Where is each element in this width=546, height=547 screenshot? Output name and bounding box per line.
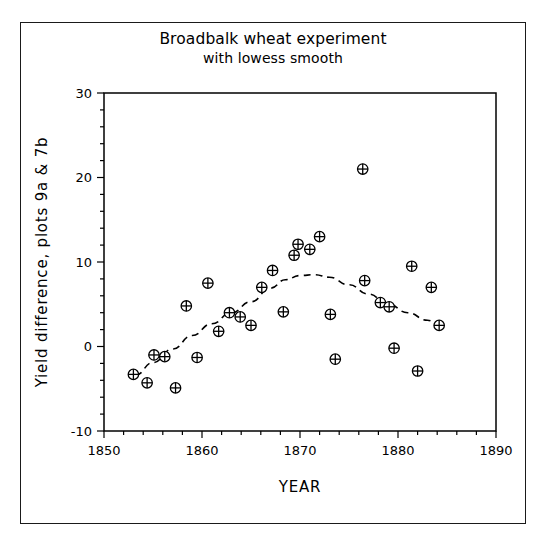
data-point-markers <box>128 164 444 393</box>
data-point-marker <box>358 164 368 174</box>
data-point-marker <box>407 261 417 271</box>
scatter-plot: 18501860187018801890 -100102030 YEAR Yie… <box>0 0 546 547</box>
x-axis-tick-labels: 18501860187018801890 <box>87 443 512 458</box>
data-point-marker <box>160 351 170 361</box>
data-point-marker <box>246 320 256 330</box>
data-point-marker <box>293 239 303 249</box>
y-tick-label: 30 <box>75 86 92 101</box>
y-axis-ticks <box>97 93 104 431</box>
figure-container: Broadbalk wheat experiment with lowess s… <box>0 0 546 547</box>
data-point-marker <box>267 265 277 275</box>
data-point-marker <box>434 320 444 330</box>
data-point-marker <box>314 231 324 241</box>
y-axis-label: Yield difference, plots 9a & 7b <box>33 137 51 389</box>
x-tick-label: 1880 <box>381 443 414 458</box>
y-tick-label: 0 <box>84 339 92 354</box>
x-tick-label: 1860 <box>185 443 218 458</box>
data-point-marker <box>142 378 152 388</box>
data-point-marker <box>203 278 213 288</box>
data-point-marker <box>426 282 436 292</box>
data-point-marker <box>359 275 369 285</box>
data-point-marker <box>278 307 288 317</box>
data-point-marker <box>412 366 422 376</box>
data-point-marker <box>235 312 245 322</box>
data-point-marker <box>289 250 299 260</box>
lowess-smooth-curve <box>135 275 439 376</box>
y-tick-label: 10 <box>75 255 92 270</box>
data-point-marker <box>149 350 159 360</box>
x-tick-label: 1870 <box>283 443 316 458</box>
y-tick-label: 20 <box>75 170 92 185</box>
x-axis-label: YEAR <box>278 478 322 496</box>
data-point-marker <box>389 343 399 353</box>
data-point-marker <box>128 369 138 379</box>
y-tick-label: -10 <box>71 424 92 439</box>
data-point-marker <box>257 282 267 292</box>
data-point-marker <box>224 308 234 318</box>
data-point-marker <box>170 383 180 393</box>
x-tick-label: 1850 <box>87 443 120 458</box>
x-tick-label: 1890 <box>479 443 512 458</box>
data-point-marker <box>192 352 202 362</box>
data-point-marker <box>181 301 191 311</box>
plot-axes-frame <box>104 93 496 431</box>
y-axis-tick-labels: -100102030 <box>71 86 92 439</box>
x-axis-ticks <box>104 431 496 438</box>
data-point-marker <box>325 309 335 319</box>
data-point-marker <box>305 244 315 254</box>
data-point-marker <box>213 326 223 336</box>
data-point-marker <box>384 302 394 312</box>
data-point-marker <box>330 354 340 364</box>
